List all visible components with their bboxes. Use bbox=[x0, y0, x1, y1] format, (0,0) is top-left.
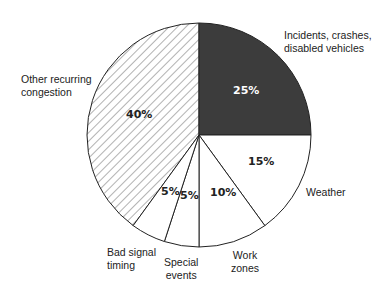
label-bad-signal-timing: Bad signal timing bbox=[107, 246, 156, 272]
pct-special-events: 5% bbox=[180, 189, 199, 202]
label-work-zones: Work zones bbox=[231, 249, 259, 275]
label-other: Other recurring congestion bbox=[21, 73, 92, 99]
pct-weather: 15% bbox=[248, 155, 274, 168]
pct-other: 40% bbox=[126, 108, 152, 121]
pct-incidents: 25% bbox=[233, 84, 259, 97]
label-special-events: Special events bbox=[164, 256, 198, 282]
label-incidents: Incidents, crashes, disabled vehicles bbox=[284, 29, 372, 55]
pct-work-zones: 10% bbox=[210, 186, 236, 199]
pct-bad-signal-timing: 5% bbox=[161, 185, 180, 198]
label-weather: Weather bbox=[306, 186, 346, 199]
